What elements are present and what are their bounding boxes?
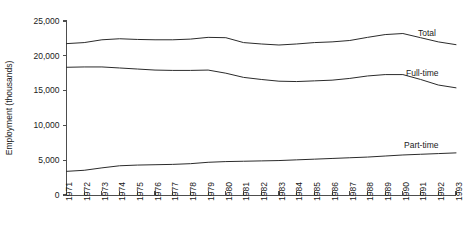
y-tick-label: 25,000 <box>34 16 60 26</box>
x-tick-label: 1973 <box>100 182 110 201</box>
x-tick-label: 1990 <box>401 182 411 201</box>
x-tick-label: 1975 <box>135 182 145 201</box>
x-tick-label: 1985 <box>312 182 322 201</box>
series-label-part-time: Part-time <box>404 140 439 150</box>
y-tick-label: 10,000 <box>34 120 60 130</box>
x-tick-label: 1977 <box>170 182 180 201</box>
y-axis: 05,00010,00015,00020,00025,000 Employmen… <box>4 16 67 200</box>
x-tick-label: 1982 <box>259 182 269 201</box>
x-tick-label: 1991 <box>418 182 428 201</box>
series-line-full-time <box>67 67 457 88</box>
x-tick-label: 1988 <box>365 182 375 201</box>
x-tick-label: 1989 <box>383 182 393 201</box>
x-tick-label: 1971 <box>64 182 74 201</box>
y-tick-label: 20,000 <box>34 51 60 61</box>
x-tick-label: 1987 <box>348 182 358 201</box>
series-label-total: Total <box>418 28 436 38</box>
x-tick-label: 1981 <box>241 182 251 201</box>
y-tick-label: 15,000 <box>34 85 60 95</box>
y-axis-ticks <box>63 21 67 195</box>
y-axis-title: Employment (thousands) <box>4 61 14 156</box>
series-line-total <box>67 34 457 45</box>
x-tick-label: 1992 <box>436 182 446 201</box>
x-axis-tick-labels: 1971197219731974197519761977197819791980… <box>64 182 464 201</box>
series-label-full-time: Full-time <box>406 68 439 78</box>
series-labels-group: Total Full-time Part-time <box>404 28 439 150</box>
employment-line-chart: 05,00010,00015,00020,00025,000 Employmen… <box>0 0 467 240</box>
x-tick-label: 1980 <box>224 182 234 201</box>
data-series-group <box>67 34 457 172</box>
x-tick-label: 1984 <box>294 182 304 201</box>
x-tick-label: 1976 <box>153 182 163 201</box>
x-tick-label: 1979 <box>206 182 216 201</box>
x-tick-label: 1974 <box>117 182 127 201</box>
series-line-part-time <box>67 153 457 171</box>
y-axis-tick-labels: 05,00010,00015,00020,00025,000 <box>34 16 60 200</box>
x-axis: 1971197219731974197519761977197819791980… <box>64 182 464 201</box>
x-tick-label: 1972 <box>82 182 92 201</box>
chart-canvas: 05,00010,00015,00020,00025,000 Employmen… <box>0 0 467 240</box>
x-tick-label: 1983 <box>277 182 287 201</box>
x-tick-label: 1978 <box>188 182 198 201</box>
x-tick-label: 1986 <box>330 182 340 201</box>
y-tick-label: 5,000 <box>38 155 60 165</box>
y-tick-label: 0 <box>55 190 60 200</box>
x-tick-label: 1993 <box>454 182 464 201</box>
